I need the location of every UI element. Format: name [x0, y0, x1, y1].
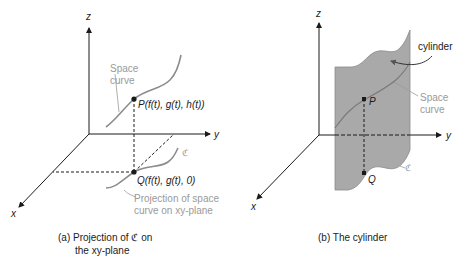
panel-a: z y x Space curve P(f(t), g(t), h(t)) Q(…: [10, 11, 220, 256]
space-curve-label-line2: curve: [420, 104, 445, 115]
curve-c-label: ℭ: [405, 163, 411, 173]
point-q-dot: [362, 171, 366, 175]
y-axis-label: y: [213, 129, 220, 140]
x-axis-label: x: [10, 208, 17, 219]
projection-label-line2: curve on xy-plane: [134, 205, 213, 216]
space-curve-label-line2: curve: [110, 75, 135, 86]
point-p-dot: [362, 97, 366, 101]
space-curve-label-line1: Space: [420, 92, 449, 103]
z-axis-label: z: [85, 11, 91, 22]
x-axis-label: x: [250, 201, 257, 212]
cylinder-surface: [335, 30, 410, 190]
space-curve-label-line1: Space: [110, 63, 139, 74]
figure: z y x Space curve P(f(t), g(t), h(t)) Q(…: [0, 0, 466, 265]
point-q-dot: [131, 169, 136, 174]
point-q-label: Q: [368, 174, 376, 185]
point-p-label: P: [369, 96, 376, 107]
caption-b: (b) The cylinder: [318, 232, 388, 243]
x-axis: [19, 134, 89, 207]
curve-c-label: ℭ: [182, 148, 188, 158]
point-q-label: Q(f(t), g(t), 0): [137, 175, 195, 186]
point-p-dot: [131, 96, 136, 101]
z-axis-label: z: [315, 8, 321, 19]
y-axis-label: y: [445, 130, 452, 141]
projection-label-line1: Projection of space: [134, 193, 219, 204]
panel-b: z y x P Q cylinder Space curve ℭ (b) The…: [250, 8, 453, 243]
point-p-label: P(f(t), g(t), h(t)): [138, 99, 205, 110]
caption-a-line1: (a) Projection of ℭ on: [58, 232, 152, 243]
x-axis: [257, 135, 319, 199]
caption-a-line2: the xy-plane: [75, 245, 130, 256]
cylinder-label: cylinder: [418, 41, 453, 52]
